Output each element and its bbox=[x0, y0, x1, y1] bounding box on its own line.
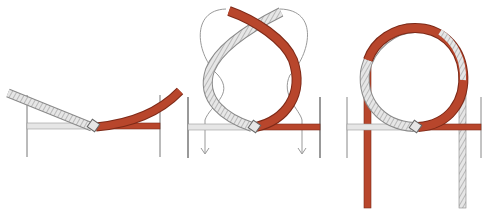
step-3-diagram bbox=[347, 28, 481, 208]
step-2-diagram bbox=[188, 9, 320, 158]
knot-diagram bbox=[0, 0, 485, 217]
white-cord-curve bbox=[8, 93, 92, 127]
step-1-diagram bbox=[8, 91, 180, 157]
red-cord-loop bbox=[229, 11, 297, 127]
